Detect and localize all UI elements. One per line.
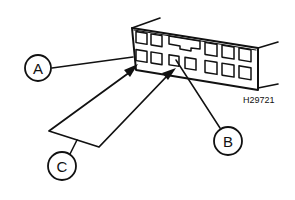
callout-label-b: B — [223, 133, 233, 150]
callout-c: C — [48, 64, 176, 180]
reference-code: H29721 — [243, 95, 275, 105]
top-row-cavities — [136, 32, 251, 62]
callout-label-c: C — [57, 158, 68, 175]
callout-a: A — [25, 55, 133, 81]
callout-label-a: A — [33, 60, 43, 77]
callout-b: B — [176, 60, 242, 155]
connector-diagram: A B C H29721 — [0, 0, 295, 200]
